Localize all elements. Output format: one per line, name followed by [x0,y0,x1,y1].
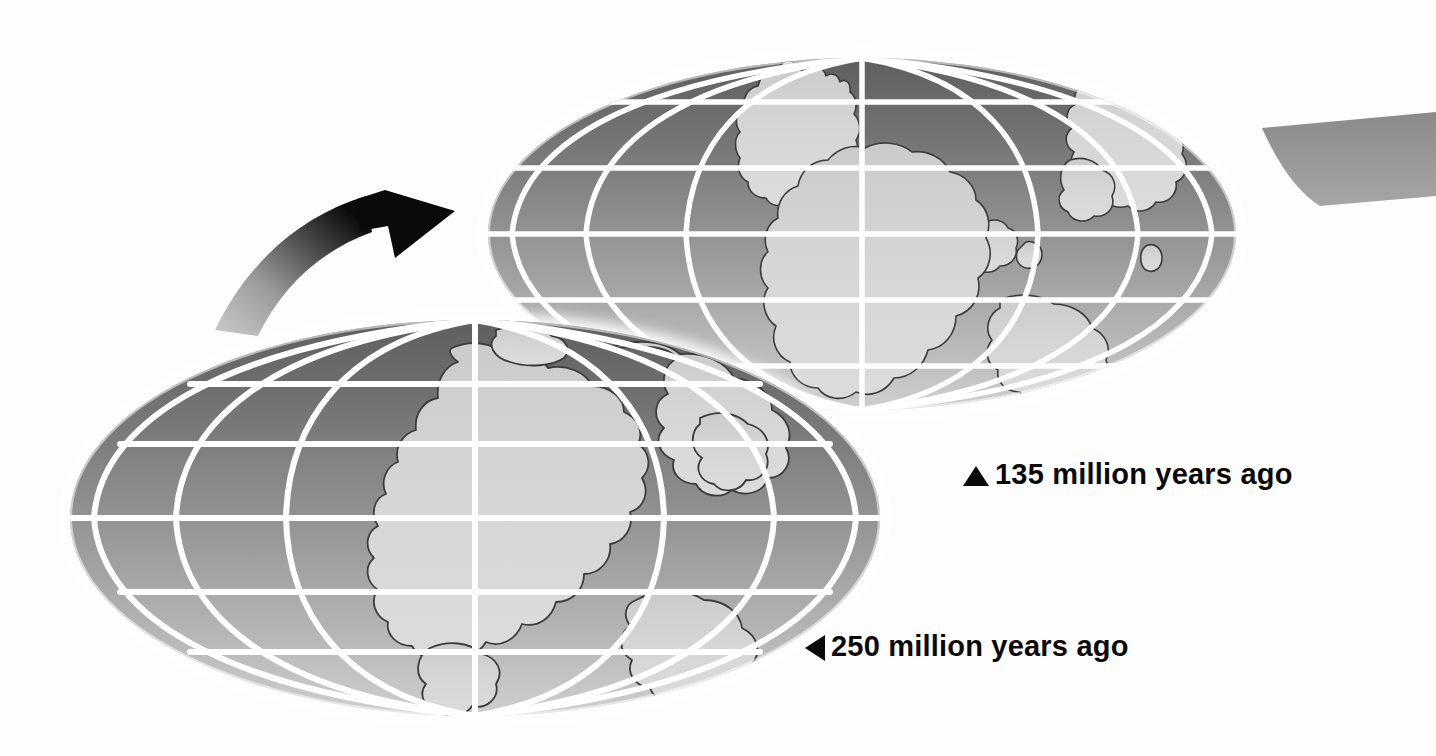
triangle-left-icon [805,635,825,661]
drift-illustration [0,0,1436,756]
caption-250-text: 250 million years ago [831,632,1129,661]
land-island-arc [1141,245,1162,272]
figure-root: 135 million years ago 250 million years … [0,0,1436,756]
globe-250 [63,313,887,723]
caption-135-text: 135 million years ago [995,460,1293,489]
caption-135-million: 135 million years ago [963,460,1293,489]
triangle-up-icon [963,466,989,486]
caption-250-million: 250 million years ago [805,632,1129,661]
